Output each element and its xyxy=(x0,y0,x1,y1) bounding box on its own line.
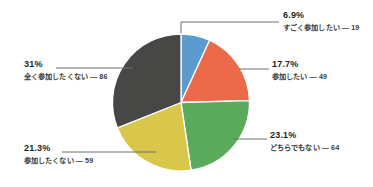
slice-dash: ― xyxy=(76,156,83,165)
slice-percent: 17.7% xyxy=(272,59,327,70)
slice-dash: ― xyxy=(310,72,317,81)
slice-category-label: 全く参加したくない xyxy=(24,72,88,81)
slice-count: 19 xyxy=(351,23,359,32)
leader-line-blue xyxy=(181,22,279,33)
slice-description: どちらでもない ― 64 xyxy=(270,143,339,153)
slice-label-sugoku-sankashitai: 6.9% すごく参加したい ― 19 xyxy=(283,10,359,33)
slice-category-label: 参加したくない xyxy=(24,156,74,165)
slice-count: 49 xyxy=(319,72,327,81)
pie-chart-figure: 6.9% すごく参加したい ― 19 17.7% 参加したい ― 49 23.1… xyxy=(0,0,373,187)
slice-percent: 23.1% xyxy=(270,130,339,141)
slice-percent: 6.9% xyxy=(283,10,359,21)
slice-count: 64 xyxy=(331,143,339,152)
slice-percent: 31% xyxy=(24,59,108,70)
slice-description: 全く参加したくない ― 86 xyxy=(24,72,108,82)
slice-category-label: 参加したい xyxy=(272,72,308,81)
pie-slices xyxy=(112,34,249,171)
slice-label-sankashitai: 17.7% 参加したい ― 49 xyxy=(272,59,327,82)
slice-count: 86 xyxy=(99,72,107,81)
slice-percent: 21.3% xyxy=(24,143,93,154)
slice-label-dochiradedemonai: 23.1% どちらでもない ― 64 xyxy=(270,130,339,153)
slice-label-mattaku-sankashitakunai: 31% 全く参加したくない ― 86 xyxy=(24,59,108,82)
slice-dash: ― xyxy=(322,143,329,152)
pie-slice-dochiradedemonai[interactable] xyxy=(181,101,249,171)
slice-description: 参加したい ― 49 xyxy=(272,72,327,82)
slice-count: 59 xyxy=(85,156,93,165)
slice-category-label: どちらでもない xyxy=(270,143,320,152)
slice-dash: ― xyxy=(342,23,349,32)
slice-dash: ― xyxy=(90,72,97,81)
slice-label-sankashitakunai: 21.3% 参加したくない ― 59 xyxy=(24,143,93,166)
slice-description: すごく参加したい ― 19 xyxy=(283,23,359,33)
slice-category-label: すごく参加したい xyxy=(283,23,340,32)
slice-description: 参加したくない ― 59 xyxy=(24,156,93,166)
